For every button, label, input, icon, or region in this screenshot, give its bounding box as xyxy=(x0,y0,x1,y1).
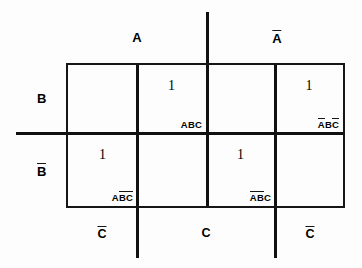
kmap-cell-b-2[interactable]: 1 ABC xyxy=(137,65,206,133)
var-a-bar: A xyxy=(250,191,257,203)
kmap-cell-bbar-2[interactable] xyxy=(137,134,206,206)
cell-minterm-label: ABC xyxy=(181,119,202,130)
label-abar-top: A xyxy=(272,31,281,45)
var-c-bar: C xyxy=(126,191,133,203)
kmap-cell-bbar-1[interactable]: 1 ABC xyxy=(68,134,137,206)
cell-minterm-label: ABC xyxy=(318,118,339,130)
cell-value: 1 xyxy=(237,148,244,162)
kmap-cell-b-1[interactable] xyxy=(68,65,137,133)
label-c-bottom-center: C xyxy=(201,227,210,240)
var-c: C xyxy=(195,119,202,130)
var-a: A xyxy=(181,119,188,130)
label-b-left: B xyxy=(37,92,46,105)
label-c-text: C xyxy=(201,226,210,240)
var-a: A xyxy=(112,192,119,203)
cell-value: 1 xyxy=(306,79,313,93)
label-bbar-left: B xyxy=(37,164,46,178)
cell-value: 1 xyxy=(168,79,175,93)
cell-minterm-label: ABC xyxy=(250,191,271,203)
cell-minterm-label: ABC xyxy=(112,191,133,203)
kmap-cell-bbar-3[interactable]: 1 ABC xyxy=(206,134,275,206)
var-b: B xyxy=(188,119,195,130)
kmap-cell-b-4[interactable]: 1 ABC xyxy=(275,65,343,133)
var-b-bar: B xyxy=(119,191,126,203)
var-b: B xyxy=(325,119,332,130)
label-abar-text: A xyxy=(272,31,281,45)
kmap-grid: 1 ABC 1 ABC 1 ABC 1 ABC xyxy=(66,63,345,208)
var-a-bar: A xyxy=(318,118,325,130)
label-cbar-text: C xyxy=(305,227,314,241)
veitch-diagram-canvas: 1 ABC 1 ABC 1 ABC 1 ABC A A xyxy=(0,0,362,268)
label-b-text: B xyxy=(37,91,46,106)
label-cbar-bottom-left: C xyxy=(97,227,106,241)
label-a-top: A xyxy=(132,31,141,44)
label-a-text: A xyxy=(132,30,141,45)
label-cbar-bottom-right: C xyxy=(305,227,314,241)
kmap-cell-b-3[interactable] xyxy=(206,65,275,133)
label-cbar-text: C xyxy=(97,227,106,241)
label-bbar-text: B xyxy=(37,164,46,178)
var-b-bar: B xyxy=(257,191,264,203)
var-c: C xyxy=(264,192,271,203)
cell-value: 1 xyxy=(99,148,106,162)
kmap-cell-bbar-4[interactable] xyxy=(275,134,343,206)
var-c-bar: C xyxy=(332,118,339,130)
